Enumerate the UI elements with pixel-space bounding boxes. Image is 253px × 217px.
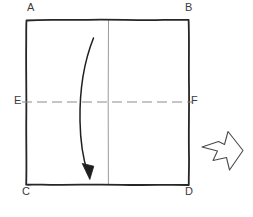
figure-canvas: A B C D E F — [0, 0, 253, 217]
vertex-label-c: C — [22, 186, 30, 197]
vertex-label-f: F — [191, 95, 198, 106]
vertex-label-e: E — [14, 95, 21, 106]
curved-fold-arrow-shaft — [80, 38, 94, 173]
curved-fold-arrow-head — [82, 163, 94, 179]
vertex-label-b: B — [185, 2, 192, 13]
vertex-label-d: D — [185, 186, 193, 197]
diagram-svg — [0, 0, 253, 217]
vertex-label-a: A — [27, 2, 34, 13]
result-block-arrow — [202, 132, 243, 171]
